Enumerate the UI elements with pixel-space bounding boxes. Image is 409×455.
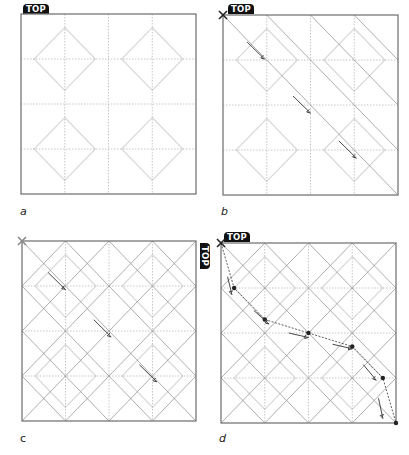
fold-line-diagonal [354,15,398,60]
panel-b: TOP [223,15,398,195]
path-point [232,286,236,290]
panel-d: TOP [221,243,396,423]
panel-a: TOP [21,14,196,194]
panel-c: TOP [22,241,196,421]
folding-diagram-b [223,15,398,195]
caption-b: b [221,205,228,218]
top-badge: TOP [23,4,49,14]
caption-a: a [20,205,27,218]
folding-diagram-c [22,241,196,421]
caption-d: d [219,432,226,445]
top-badge-rotated: TOP [200,243,210,269]
top-badge: TOP [228,4,254,14]
path-point [394,421,398,425]
caption-c: c [20,432,26,445]
folding-diagram-d [221,243,396,423]
folding-diagram-a [21,14,196,194]
top-badge: TOP [224,232,250,242]
path-point [381,376,385,380]
fold-line-diagonal [267,15,398,150]
path-point [306,331,310,335]
